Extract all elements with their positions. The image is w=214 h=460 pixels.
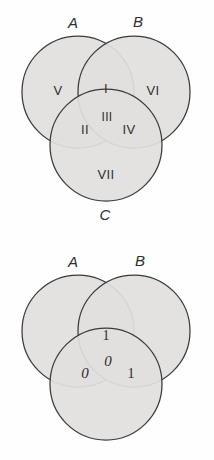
set-label-a-2: A (67, 253, 78, 270)
value-label-a-and-c: 0 (81, 365, 89, 381)
value-label-a-b-c: 0 (104, 353, 112, 369)
set-label-c: C (100, 206, 111, 223)
value-label-b-and-c: 1 (128, 366, 135, 381)
region-label-a-only: V (54, 83, 63, 98)
region-label-c-only: VII (98, 167, 115, 182)
venn-diagram-page: A B C V I VI II III IV VII A B (0, 0, 214, 460)
venn-svg-binary: A B 1 0 0 1 (0, 230, 214, 460)
set-label-b: B (133, 13, 143, 30)
venn-svg-roman: A B C V I VI II III IV VII (0, 0, 214, 230)
set-label-b-2: B (135, 252, 145, 269)
region-label-a-b-c: III (102, 110, 113, 124)
region-label-a-and-c: II (81, 122, 89, 137)
venn-figure-binary-values: A B 1 0 0 1 (0, 230, 214, 460)
region-label-b-and-c: IV (123, 122, 136, 137)
region-label-b-only: VI (147, 83, 160, 98)
set-label-a: A (67, 14, 78, 31)
circle-c (50, 89, 162, 201)
region-label-a-and-b: I (104, 81, 108, 96)
circle-c-2 (50, 328, 162, 440)
value-label-a-and-b: 1 (103, 328, 110, 343)
venn-figure-roman-regions: A B C V I VI II III IV VII (0, 0, 214, 230)
